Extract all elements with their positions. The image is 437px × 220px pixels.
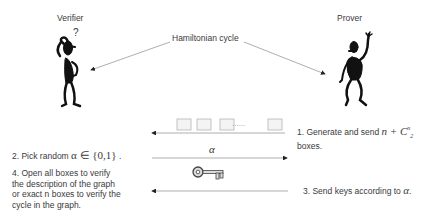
boxes-ellipsis: ...... xyxy=(232,119,245,128)
alpha-label: α xyxy=(209,143,215,155)
verifier-label: Verifier xyxy=(57,13,83,23)
step-1: 1. Generate and send n + Cn2 boxes. xyxy=(297,123,413,152)
prover-figure-icon xyxy=(340,32,372,105)
step-1-math: n + Cn2 xyxy=(382,125,414,137)
hamiltonian-cycle-label: Hamiltonian cycle xyxy=(172,33,239,43)
key-icon xyxy=(193,167,223,179)
prover-label: Prover xyxy=(337,13,362,23)
step-2: 2. Pick random α ∈ {0,1} . xyxy=(12,150,121,162)
arrow-to-verifier xyxy=(91,42,170,70)
step-4: 4. Open all boxes to verify the descript… xyxy=(12,168,121,210)
commitment-boxes xyxy=(177,119,282,130)
step-3: 3. Send keys according to α. xyxy=(303,185,411,197)
question-mark: ? xyxy=(73,27,79,38)
verifier-figure-icon xyxy=(58,38,80,107)
arrow-to-prover xyxy=(244,42,325,74)
